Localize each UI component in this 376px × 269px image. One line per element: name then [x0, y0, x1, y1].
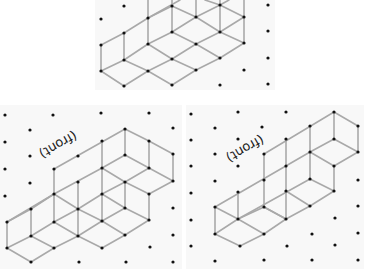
- grid-dot: [189, 244, 192, 247]
- grid-dot: [213, 232, 216, 235]
- grid-dot: [123, 206, 126, 209]
- grid-dot: [310, 232, 313, 235]
- grid-dot: [262, 258, 265, 261]
- grid-dot: [308, 150, 311, 153]
- grid-dot: [52, 246, 55, 249]
- grid-dot: [236, 110, 239, 113]
- grid-dot: [236, 164, 239, 167]
- grid-dot: [122, 4, 125, 7]
- grid-dot: [213, 126, 216, 129]
- grid-dot: [29, 234, 32, 237]
- grid-dot: [146, 42, 149, 45]
- grid-dot: [213, 205, 216, 208]
- isometric-diagram: (front) (front): [0, 0, 376, 269]
- grid-dot: [194, 15, 197, 18]
- grid-dot: [122, 31, 125, 34]
- grid-dot: [99, 17, 102, 20]
- grid-dot: [356, 124, 359, 127]
- grid-dot: [285, 244, 288, 247]
- grid-dot: [51, 113, 54, 116]
- grid-dot: [146, 16, 149, 19]
- grid-dot: [218, 56, 221, 59]
- grid-dot: [100, 246, 103, 249]
- grid-dot: [52, 192, 55, 195]
- grid-dot: [171, 179, 174, 182]
- grid-dot: [76, 234, 79, 237]
- panel-background: [186, 105, 364, 269]
- grid-dot: [170, 4, 173, 7]
- grid-dot: [356, 150, 359, 153]
- grid-dot: [284, 189, 287, 192]
- grid-dot: [213, 259, 216, 262]
- grid-dot: [356, 204, 359, 207]
- grid-dot: [3, 194, 6, 197]
- grid-dot: [5, 220, 8, 223]
- grid-dot: [99, 69, 102, 72]
- grid-dot: [147, 218, 150, 221]
- grid-dot: [266, 29, 269, 32]
- grid-dot: [122, 58, 125, 61]
- grid-dot: [332, 110, 335, 113]
- grid-dot: [194, 68, 197, 71]
- grid-dot: [171, 233, 174, 236]
- grid-dot: [147, 139, 150, 142]
- grid-dot: [356, 258, 359, 261]
- grid-dot: [189, 112, 192, 115]
- grid-dot: [76, 207, 79, 210]
- grid-dot: [100, 139, 103, 142]
- grid-dot: [28, 181, 31, 184]
- grid-dot: [123, 180, 126, 183]
- grid-dot: [242, 15, 245, 18]
- grid-dot: [146, 69, 149, 72]
- grid-dot: [332, 189, 335, 192]
- grid-dot: [76, 180, 79, 183]
- panel-background: [0, 105, 182, 269]
- grid-dot: [236, 217, 239, 220]
- grid-dot: [194, 42, 197, 45]
- grid-dot: [333, 243, 336, 246]
- grid-dot: [189, 191, 192, 194]
- grid-dot: [76, 154, 79, 157]
- grid-dot: [52, 220, 55, 223]
- grid-dot: [5, 246, 8, 249]
- grid-dot: [310, 258, 313, 261]
- grid-dot: [99, 43, 102, 46]
- grid-dot: [308, 124, 311, 127]
- grid-dot: [100, 219, 103, 222]
- grid-dot: [3, 113, 6, 116]
- grid-dot: [189, 164, 192, 167]
- grid-dot: [189, 218, 192, 221]
- grid-dot: [189, 138, 192, 141]
- grid-dot: [266, 56, 269, 59]
- grid-dot: [3, 140, 6, 143]
- grid-dot: [171, 260, 174, 263]
- grid-dot: [170, 30, 173, 33]
- grid-dot: [238, 244, 241, 247]
- grid-dot: [123, 127, 126, 130]
- grid-dot: [260, 125, 263, 128]
- grid-dot: [123, 233, 126, 236]
- grid-dot: [262, 232, 265, 235]
- grid-dot: [148, 245, 151, 248]
- grid-dot: [308, 177, 311, 180]
- grid-dot: [218, 3, 221, 6]
- grid-dot: [28, 154, 31, 157]
- grid-dot: [3, 167, 6, 170]
- grid-dot: [170, 83, 173, 86]
- grid-dot: [242, 41, 245, 44]
- grid-dot: [356, 178, 359, 181]
- grid-dot: [52, 167, 55, 170]
- grid-dot: [213, 152, 216, 155]
- grid-dot: [333, 216, 336, 219]
- grid-dot: [284, 137, 287, 140]
- grid-dot: [242, 68, 245, 71]
- grid-dot: [147, 192, 150, 195]
- grid-dot: [332, 164, 335, 167]
- grid-dot: [147, 166, 150, 169]
- grid-dot: [266, 3, 269, 6]
- grid-dot: [99, 111, 102, 114]
- grid-dot: [284, 164, 287, 167]
- grid-dot: [284, 217, 287, 220]
- grid-dot: [262, 152, 265, 155]
- grid-dot: [356, 231, 359, 234]
